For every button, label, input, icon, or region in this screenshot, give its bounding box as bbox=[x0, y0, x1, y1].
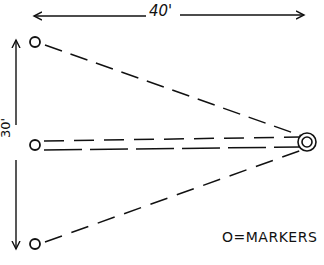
focal-point-icon bbox=[298, 133, 316, 151]
legend-text: O=MARKERS bbox=[222, 229, 317, 245]
connection-middle bbox=[44, 137, 300, 150]
marker-top-left-icon bbox=[30, 37, 40, 47]
height-label: 30' bbox=[0, 116, 13, 140]
marker-bottom-left-icon bbox=[30, 239, 40, 249]
marker-layout-diagram bbox=[0, 0, 324, 265]
connection-top bbox=[45, 45, 302, 136]
width-label: 40' bbox=[146, 2, 175, 20]
marker-middle-left-icon bbox=[30, 140, 40, 150]
